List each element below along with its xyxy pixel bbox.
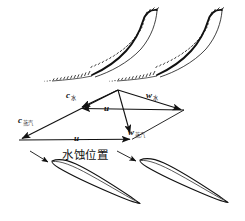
blade-pressure-surface-left <box>95 11 157 77</box>
erosion-pointer-right <box>117 151 136 161</box>
label-c-water: c水 <box>66 85 76 101</box>
erosion-position-label: 水蚀位置 <box>62 146 108 162</box>
blade-pressure-surface-right <box>160 11 222 77</box>
top-blade-group-right <box>109 8 224 82</box>
vector-u-upper <box>82 109 184 111</box>
blade-tail-edge-left <box>52 76 92 81</box>
bottom-blade-left <box>52 160 140 204</box>
blade-outline-bottom-right <box>140 159 228 203</box>
bottom-blade-right <box>140 159 228 203</box>
blade-suction-surface-left <box>92 10 157 75</box>
top-blade-group-left <box>44 8 159 82</box>
velocity-triangle <box>19 90 184 140</box>
label-w-water: w水 <box>146 85 158 101</box>
blade-suction-surface-right <box>157 10 222 75</box>
erosion-pointer-left <box>30 151 48 162</box>
blade-tail-edge-right <box>117 76 157 81</box>
label-c-steam: c蒸汽 <box>18 110 33 126</box>
blade-camber-bottom-right <box>141 160 229 202</box>
label-u-upper: u <box>104 98 109 114</box>
label-w-steam: w蒸汽 <box>128 122 145 138</box>
erosion-diagram-figure: c水 w水 c蒸汽 w蒸汽 u u 水蚀位置 <box>0 0 245 221</box>
blade-outline-bottom-left <box>52 160 140 204</box>
blade-camber-bottom-left <box>53 161 141 203</box>
diagram-canvas <box>0 0 245 221</box>
label-u-lower: u <box>74 128 79 144</box>
